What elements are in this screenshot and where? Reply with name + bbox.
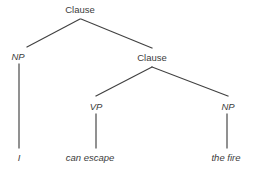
leaf-subject-word: I: [18, 152, 21, 163]
leaf-object-words: the fire: [211, 152, 240, 163]
node-vp: VP: [90, 101, 103, 112]
embedded-clause-to-object-np: [152, 67, 228, 96]
root-to-embedded-clause: [81, 19, 152, 48]
node-subject-np: NP: [11, 51, 24, 62]
tree-edges-layer: [0, 0, 254, 172]
leaf-verb-phrase-words: can escape: [66, 152, 115, 163]
node-object-np: NP: [221, 101, 234, 112]
embedded-clause-to-vp: [96, 67, 152, 96]
root-to-subject-np: [27, 19, 80, 47]
node-embedded-clause: Clause: [137, 52, 167, 63]
node-root-clause: Clause: [65, 4, 95, 15]
syntax-tree-figure: Clause NP Clause VP NP I can escape the …: [0, 0, 254, 172]
